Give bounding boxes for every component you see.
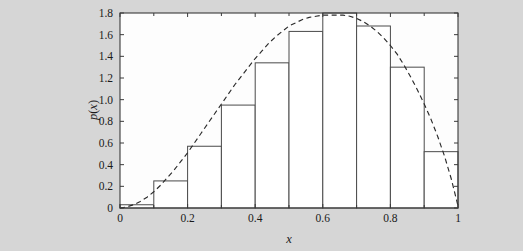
histogram-bar: [289, 31, 323, 208]
x-tick-label: 0.2: [180, 212, 195, 224]
y-tick-label: 0.2: [99, 180, 114, 192]
histogram-bar: [424, 152, 458, 208]
histogram-bar: [221, 105, 255, 208]
y-tick-label: 0.6: [99, 137, 114, 149]
histogram-bar: [188, 146, 222, 208]
y-tick-label: 1.6: [99, 29, 114, 41]
histogram-bar: [357, 26, 391, 208]
histogram-bar: [323, 13, 357, 208]
x-axis-title: x: [285, 232, 292, 246]
figure-container: 00.20.40.60.81 00.20.40.60.81.01.21.41.6…: [0, 0, 523, 251]
y-tick-label: 0.8: [99, 115, 114, 127]
y-tick-label: 1.8: [99, 7, 114, 19]
y-axis-title: p(x): [86, 100, 100, 121]
x-tick-label: 0.4: [248, 212, 263, 224]
y-tick-label: 0.4: [99, 159, 114, 171]
y-axis-title-group: p(x): [86, 100, 100, 121]
x-tick-label: 0.6: [316, 212, 331, 224]
x-tick-label: 1: [455, 212, 461, 224]
histogram-bar: [255, 63, 289, 208]
y-tick-label: 1.0: [99, 94, 114, 106]
x-tick-label: 0.8: [383, 212, 398, 224]
y-tick-label: 1.4: [99, 50, 114, 62]
x-tick-label: 0: [117, 212, 123, 224]
histogram-bar: [154, 181, 188, 208]
chart-canvas: 00.20.40.60.81 00.20.40.60.81.01.21.41.6…: [0, 0, 523, 251]
y-tick-label: 1.2: [99, 72, 114, 84]
y-tick-label: 0: [107, 202, 113, 214]
histogram-bar: [390, 67, 424, 208]
